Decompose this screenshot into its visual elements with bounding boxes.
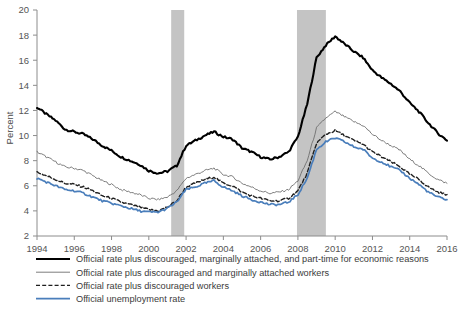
x-tick-label: 2016 xyxy=(436,243,457,254)
chart-legend: Official rate plus discouraged, marginal… xyxy=(36,254,429,304)
y-tick-label: 6 xyxy=(24,180,29,191)
x-tick-label: 2008 xyxy=(287,243,308,254)
y-axis-title: Percent xyxy=(4,111,15,144)
axis-lines xyxy=(37,10,447,236)
series-line-u6 xyxy=(37,36,447,173)
x-tick-label: 2002 xyxy=(176,243,197,254)
y-tick-label: 16 xyxy=(18,55,29,66)
y-tick-label: 14 xyxy=(18,80,29,91)
x-tick-label: 1998 xyxy=(101,243,122,254)
y-tick-label: 2 xyxy=(24,230,29,241)
x-tick-label: 2000 xyxy=(138,243,159,254)
legend-label-u5: Official rate plus discouraged and margi… xyxy=(76,268,330,278)
series-line-u5 xyxy=(37,111,447,200)
y-tick-label: 4 xyxy=(24,205,29,216)
x-tick-label: 2014 xyxy=(399,243,420,254)
x-tick-label: 2010 xyxy=(325,243,346,254)
y-tick-label: 20 xyxy=(18,4,29,15)
unemployment-line-chart: 2468101214161820 19941996199820002002200… xyxy=(0,0,459,311)
x-tick-label: 2012 xyxy=(362,243,383,254)
x-tick-label: 1996 xyxy=(64,243,85,254)
chart-container: 2468101214161820 19941996199820002002200… xyxy=(0,0,459,311)
y-axis-tick-group: 2468101214161820 xyxy=(18,4,37,241)
x-tick-label: 2004 xyxy=(213,243,234,254)
x-tick-label: 2006 xyxy=(250,243,271,254)
legend-label-u3: Official unemployment rate xyxy=(76,294,185,304)
y-tick-label: 12 xyxy=(18,105,29,116)
y-tick-label: 8 xyxy=(24,155,29,166)
x-tick-label: 1994 xyxy=(26,243,47,254)
legend-label-u4: Official rate plus discouraged workers xyxy=(76,281,229,291)
x-axis-tick-group: 1994199619982000200220042006200820102012… xyxy=(26,236,457,254)
y-tick-label: 10 xyxy=(18,130,29,141)
y-tick-label: 18 xyxy=(18,30,29,41)
data-series-group xyxy=(37,36,447,212)
legend-label-u6: Official rate plus discouraged, marginal… xyxy=(76,254,429,264)
